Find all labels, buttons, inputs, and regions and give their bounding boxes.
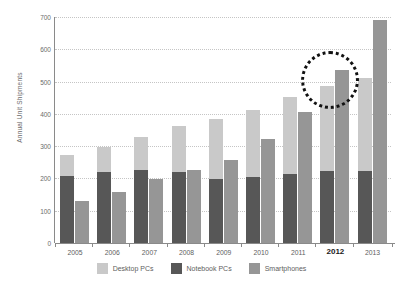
legend-label: Notebook PCs — [187, 265, 232, 272]
bar-segment-desktop-pcs — [60, 155, 74, 175]
x-axis-tick — [167, 243, 168, 247]
y-axis-tick-label: 100 — [40, 207, 51, 214]
chart-container: Annual Unit Shipments 010020030040050060… — [0, 0, 403, 292]
bar-segment-smartphones — [335, 70, 349, 243]
x-axis-tick — [129, 243, 130, 247]
legend-swatch-icon — [249, 263, 260, 274]
bar-segment-smartphones — [187, 170, 201, 243]
bar-segment-notebook-pcs — [97, 172, 111, 243]
bar-segment-desktop-pcs — [134, 137, 148, 170]
bar-segment-smartphones — [261, 139, 275, 243]
y-axis-tick-label: 300 — [40, 143, 51, 150]
y-axis-tick-label: 0 — [47, 240, 51, 247]
bar-segment-smartphones — [112, 192, 126, 243]
bar-segment-notebook-pcs — [320, 171, 334, 243]
plot-area: 0100200300400500600700200520062007200820… — [55, 17, 391, 243]
y-axis-line — [54, 17, 55, 243]
y-axis-tick-label: 700 — [40, 14, 51, 21]
x-axis-tick — [55, 243, 56, 247]
bar-segment-desktop-pcs — [246, 110, 260, 177]
legend-swatch-icon — [171, 263, 182, 274]
bar-segment-notebook-pcs — [60, 176, 74, 243]
legend: Desktop PCsNotebook PCsSmartphones — [0, 263, 403, 274]
x-axis-label-2009: 2009 — [204, 249, 244, 256]
bar-segment-smartphones — [373, 20, 387, 243]
gridline — [55, 17, 391, 18]
bar-segment-notebook-pcs — [246, 177, 260, 243]
y-axis-tick-label: 200 — [40, 175, 51, 182]
x-axis-label-2006: 2006 — [92, 249, 132, 256]
bar-segment-desktop-pcs — [209, 119, 223, 179]
x-axis-tick — [353, 243, 354, 247]
bar-segment-desktop-pcs — [358, 78, 372, 171]
x-axis-label-2007: 2007 — [129, 249, 169, 256]
legend-swatch-icon — [97, 263, 108, 274]
gridline — [55, 49, 391, 50]
bar-segment-notebook-pcs — [134, 170, 148, 243]
bar-segment-desktop-pcs — [283, 97, 297, 174]
bar-segment-notebook-pcs — [283, 174, 297, 243]
bar-segment-notebook-pcs — [358, 171, 372, 243]
x-axis-tick — [241, 243, 242, 247]
legend-item[interactable]: Smartphones — [249, 263, 307, 274]
legend-item[interactable]: Desktop PCs — [97, 263, 154, 274]
y-axis-tick-label: 600 — [40, 46, 51, 53]
x-axis-label-2013: 2013 — [353, 249, 393, 256]
bar-segment-smartphones — [149, 179, 163, 243]
x-axis-label-2008: 2008 — [167, 249, 207, 256]
y-axis-tick-label: 400 — [40, 110, 51, 117]
bar-segment-smartphones — [298, 112, 312, 243]
x-axis-tick — [204, 243, 205, 247]
x-axis-label-2012: 2012 — [315, 247, 355, 256]
x-axis-label-2005: 2005 — [55, 249, 95, 256]
bar-segment-notebook-pcs — [209, 179, 223, 243]
bar-segment-desktop-pcs — [172, 126, 186, 172]
legend-label: Smartphones — [265, 265, 307, 272]
y-axis-title: Annual Unit Shipments — [16, 53, 23, 163]
bar-segment-desktop-pcs — [320, 86, 334, 171]
legend-item[interactable]: Notebook PCs — [171, 263, 232, 274]
bar-segment-smartphones — [224, 160, 238, 243]
x-axis-label-2011: 2011 — [278, 249, 318, 256]
bar-segment-smartphones — [75, 201, 89, 243]
bar-segment-notebook-pcs — [172, 172, 186, 243]
x-axis-tick — [392, 243, 393, 247]
x-axis-tick — [92, 243, 93, 247]
x-axis-line — [55, 243, 395, 244]
x-axis-tick — [278, 243, 279, 247]
y-axis-tick-label: 500 — [40, 78, 51, 85]
bar-segment-desktop-pcs — [97, 147, 111, 172]
legend-label: Desktop PCs — [113, 265, 154, 272]
x-axis-label-2010: 2010 — [241, 249, 281, 256]
